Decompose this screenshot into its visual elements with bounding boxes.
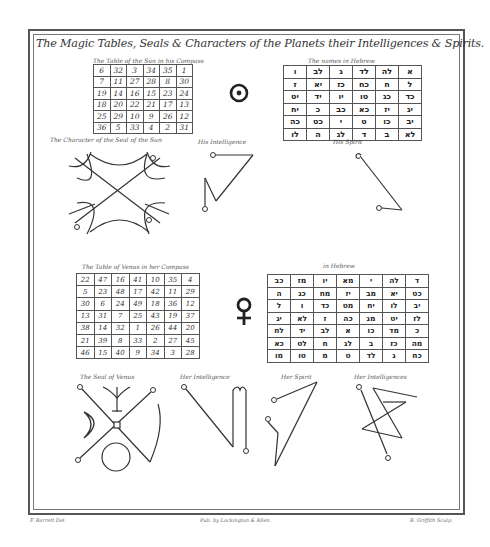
table-cell: 34 <box>143 65 160 77</box>
table-cell: ו <box>284 66 307 79</box>
table-cell: 28 <box>143 76 160 88</box>
table-cell: 6 <box>94 298 112 310</box>
table-cell: 33 <box>127 122 144 134</box>
table-cell: ד <box>406 275 429 288</box>
table-cell: לו <box>284 128 307 141</box>
table-cell: 41 <box>129 274 147 286</box>
table-cell: 14 <box>110 88 127 100</box>
table-cell: כט <box>307 116 330 129</box>
table-cell: 35 <box>164 274 182 286</box>
table-cell: 43 <box>147 310 165 322</box>
table-cell: יד <box>291 325 314 338</box>
table-cell: מז <box>291 275 314 288</box>
venus-seal-caption: The Seal of Venus <box>80 373 134 380</box>
table-cell: כה <box>284 116 307 129</box>
venus-spirit-character-icon <box>265 378 325 468</box>
table-cell: 25 <box>94 111 111 123</box>
table-cell: 24 <box>112 298 130 310</box>
table-cell: יז <box>337 287 360 300</box>
table-cell: ז <box>284 78 307 91</box>
venus-table-caption: The Table of Venus in her Compass <box>82 263 189 270</box>
table-cell: יא <box>307 78 330 91</box>
table-cell: 49 <box>129 298 147 310</box>
table-cell: 30 <box>77 298 95 310</box>
table-cell: לד <box>360 350 383 363</box>
table-cell: יט <box>383 312 406 325</box>
venus-square-row: 213983322745 <box>77 334 200 346</box>
table-cell: 36 <box>164 298 182 310</box>
table-cell: 27 <box>164 334 182 346</box>
venus-symbol-icon <box>234 297 254 327</box>
venus-intelligences-character-icon <box>355 382 425 467</box>
table-cell: יב <box>399 116 422 129</box>
table-cell: לה <box>376 66 399 79</box>
venus-hebrew-row: מוטומטלדגכח <box>268 350 429 363</box>
table-cell: ח <box>376 78 399 91</box>
table-cell: לח <box>268 325 291 338</box>
table-cell: 16 <box>112 274 130 286</box>
table-cell: כו <box>360 325 383 338</box>
sun-seal-caption: The Character of the Seal of the Sun <box>50 136 162 143</box>
table-cell: מו <box>268 350 291 363</box>
venus-hebrew-caption: in Hebrew <box>323 262 355 269</box>
sun-symbol-icon <box>228 82 250 104</box>
table-cell: לז <box>406 312 429 325</box>
sun-hebrew-row: יטידיוטוכגכד <box>284 91 422 104</box>
sun-hebrew-row: זיאכזכחחל <box>284 78 422 91</box>
table-cell: לה <box>383 275 406 288</box>
table-cell: יב <box>406 300 429 313</box>
venus-intelligence-caption: Her Intelligence <box>180 373 230 380</box>
sun-hebrew-row: כהכטיטכויב <box>284 116 422 129</box>
table-cell: 19 <box>94 88 111 100</box>
table-cell: 2 <box>160 122 177 134</box>
venus-seal-character-icon <box>70 382 170 492</box>
table-cell: 20 <box>182 322 200 334</box>
venus-hebrew-row: לחידלבאכומדכ <box>268 325 429 338</box>
table-cell: לד <box>353 66 376 79</box>
sun-magic-square: 6323343517112728830191416152324182022211… <box>93 64 193 134</box>
table-cell: 12 <box>176 111 193 123</box>
table-cell: 5 <box>110 122 127 134</box>
table-cell: 3 <box>127 65 144 77</box>
table-cell: כ <box>307 103 330 116</box>
table-cell: 5 <box>77 286 95 298</box>
table-cell: 38 <box>77 322 95 334</box>
table-cell: ב <box>360 337 383 350</box>
table-cell: כח <box>353 78 376 91</box>
table-cell: 15 <box>143 88 160 100</box>
table-cell: 32 <box>112 322 130 334</box>
venus-square-row: 461540934328 <box>77 347 200 359</box>
table-cell: יא <box>383 287 406 300</box>
venus-hebrew-row: כבמזיומאילהד <box>268 275 429 288</box>
table-cell: מג <box>360 312 383 325</box>
sun-spirit-caption: His Spirit <box>333 138 362 145</box>
table-cell: 24 <box>176 88 193 100</box>
table-cell: כו <box>376 116 399 129</box>
table-cell: 16 <box>127 88 144 100</box>
table-cell: 27 <box>127 76 144 88</box>
table-cell: כה <box>337 312 360 325</box>
sun-intelligence-character-icon <box>200 150 270 220</box>
table-cell: 15 <box>94 347 112 359</box>
table-cell: 8 <box>160 76 177 88</box>
table-cell: ו <box>291 300 314 313</box>
table-cell: כא <box>268 337 291 350</box>
sun-table-caption: The Table of the Sun in his Compass <box>93 57 204 64</box>
table-cell: מ <box>314 350 337 363</box>
table-cell: מט <box>337 300 360 313</box>
table-cell: יג <box>268 312 291 325</box>
table-cell: 42 <box>147 286 165 298</box>
table-cell: 22 <box>127 99 144 111</box>
table-cell: ל <box>399 78 422 91</box>
credit-publisher: Pub. by Lackington & Allen. <box>200 517 271 523</box>
table-cell: י <box>360 275 383 288</box>
table-cell: יו <box>314 275 337 288</box>
venus-hebrew-row: לוכדמטיחלויב <box>268 300 429 313</box>
venus-square-row: 3814321264420 <box>77 322 200 334</box>
table-cell: 48 <box>112 286 130 298</box>
table-cell: ט <box>337 350 360 363</box>
table-cell: 18 <box>147 298 165 310</box>
table-cell: 26 <box>160 111 177 123</box>
table-cell: 1 <box>176 65 193 77</box>
sun-square-row: 7112728830 <box>94 76 193 88</box>
